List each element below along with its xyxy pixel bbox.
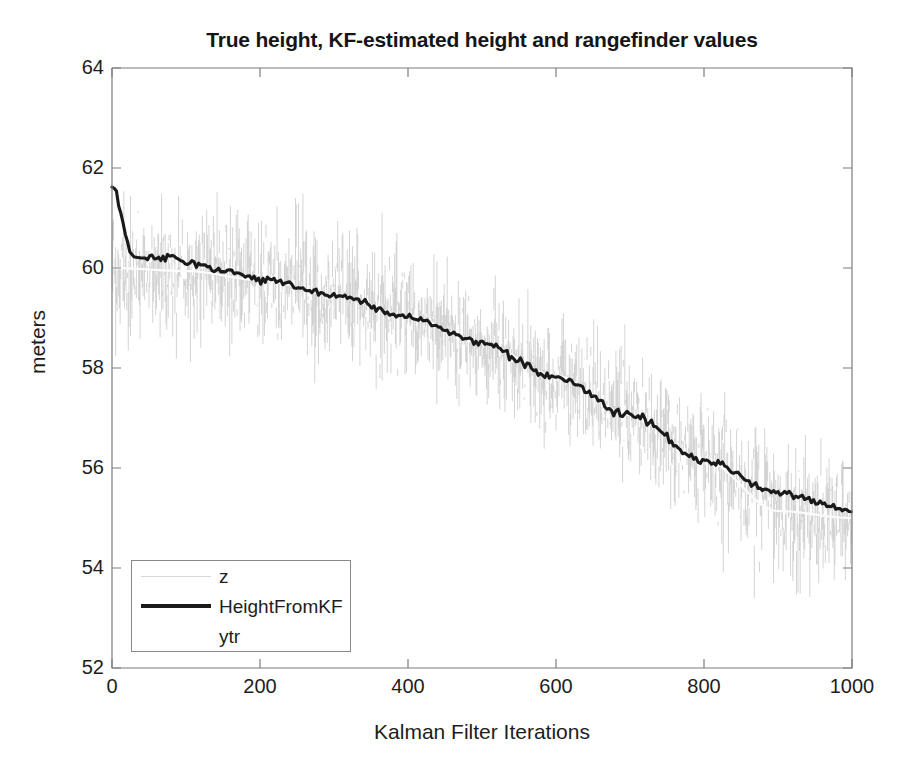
legend-item-heightfromkf[interactable]: HeightFromKF xyxy=(132,591,350,621)
legend-label-ytr: ytr xyxy=(219,627,240,646)
legend-line-swatch-ytr xyxy=(139,629,213,643)
chart-figure: True height, KF-estimated height and ran… xyxy=(0,0,920,772)
legend-line-swatch-z xyxy=(139,569,213,583)
legend-label-heightfromkf: HeightFromKF xyxy=(219,597,343,616)
legend-line-swatch-heightfromkf xyxy=(139,599,213,613)
chart-legend[interactable]: z HeightFromKF ytr xyxy=(131,560,351,652)
plot-area xyxy=(0,0,920,772)
noise-scatter-z xyxy=(112,191,851,598)
legend-item-ytr[interactable]: ytr xyxy=(132,621,350,651)
legend-label-z: z xyxy=(219,567,229,586)
legend-item-z[interactable]: z xyxy=(132,561,350,591)
